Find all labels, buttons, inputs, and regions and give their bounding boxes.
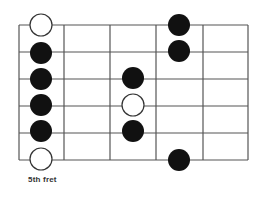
scale-note-filled-circle-icon (122, 67, 144, 89)
root-note-open-circle-icon (30, 148, 52, 170)
scale-note-filled-circle-icon (30, 68, 52, 90)
scale-note-filled-circle-icon (30, 120, 52, 142)
scale-note-filled-circle-icon (30, 94, 52, 116)
scale-note-filled-circle-icon (168, 40, 190, 62)
root-note-open-circle-icon (30, 14, 52, 36)
fretboard-diagram (0, 0, 260, 197)
scale-note-filled-circle-icon (168, 149, 190, 171)
root-note-open-circle-icon (122, 94, 144, 116)
scale-note-filled-circle-icon (122, 120, 144, 142)
fret-position-label: 5th fret (28, 175, 57, 184)
scale-note-filled-circle-icon (30, 42, 52, 64)
scale-note-filled-circle-icon (168, 14, 190, 36)
